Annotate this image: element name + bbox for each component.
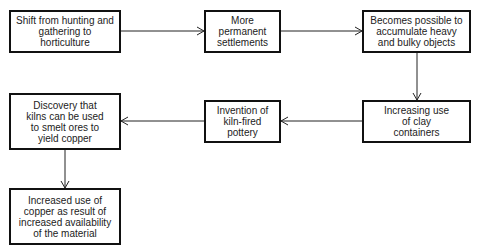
node-clay-containers: Increasing use of clay containers [362,100,471,143]
node-increased-copper-use: Increased use of copper as result of inc… [9,188,121,245]
node-discovery-smelting: Discovery that kilns can be used to smel… [9,93,121,150]
node-label: More permanent settlements [209,15,276,48]
node-permanent-settlements: More permanent settlements [204,10,281,53]
node-label: Increased use of copper as result of inc… [14,195,116,239]
node-label: Increasing use of clay containers [367,105,466,138]
node-label: Invention of kiln-fired pottery [209,105,276,138]
node-label: Shift from hunting and gathering to hort… [14,15,116,48]
node-label: Discovery that kilns can be used to smel… [14,100,116,144]
node-kiln-fired-pottery: Invention of kiln-fired pottery [204,100,281,143]
node-accumulate-objects: Becomes possible to accumulate heavy and… [362,10,471,53]
node-horticulture: Shift from hunting and gathering to hort… [9,10,121,53]
node-label: Becomes possible to accumulate heavy and… [367,15,466,48]
